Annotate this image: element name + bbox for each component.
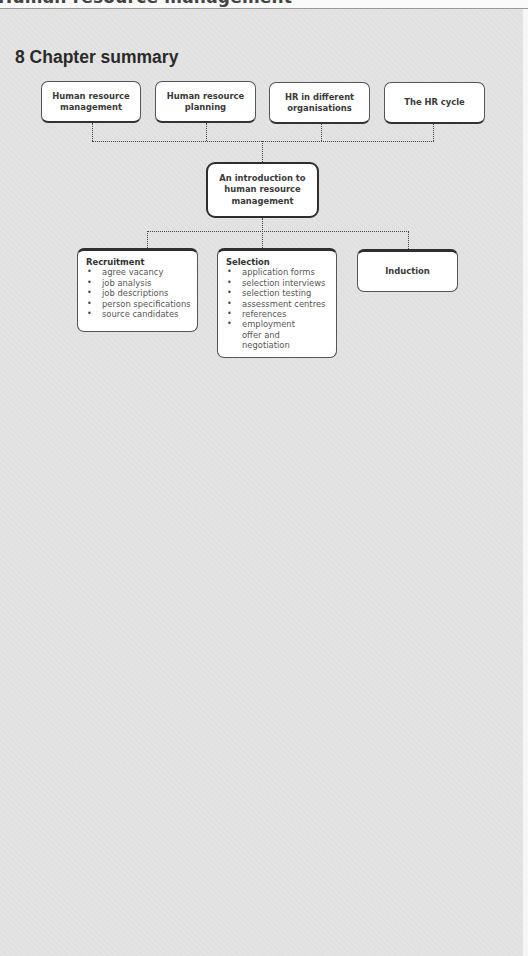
connector-line	[262, 141, 263, 162]
connector-line	[92, 123, 93, 141]
topic-box-hr-organisations: HR in different organisations	[269, 82, 370, 124]
list-item: •selection testing	[226, 288, 330, 298]
subtopic-box-selection: Selection •application forms •selection …	[217, 248, 337, 358]
list-item: •references	[226, 309, 330, 319]
list-item: •assessment centres	[226, 299, 330, 309]
list-item: •employment offer and negotiation	[226, 319, 330, 350]
subtopic-box-induction: Induction	[357, 249, 458, 292]
bullet-icon: •	[87, 267, 92, 277]
connector-line	[92, 141, 434, 142]
list-item: •agree vacancy	[86, 267, 191, 277]
list-item: •selection interviews	[226, 278, 330, 288]
bullet-icon: •	[227, 319, 232, 329]
subtopic-heading: Selection	[226, 257, 330, 267]
topic-box-label: HR in different organisations	[285, 92, 354, 114]
central-topic-box: An introduction to human resource manage…	[206, 162, 319, 218]
connector-line	[262, 218, 263, 248]
topic-box-hrm: Human resource management	[41, 81, 141, 123]
connector-line	[206, 123, 207, 141]
list-item: •person specifications	[86, 299, 191, 309]
bullet-icon: •	[227, 267, 232, 277]
bullet-icon: •	[227, 278, 232, 288]
list-item: •application forms	[226, 267, 330, 277]
central-topic-label: An introduction to human resource manage…	[219, 173, 305, 208]
bullet-icon: •	[227, 299, 232, 309]
page-background: Human resource management 8 Chapter summ…	[0, 0, 528, 956]
bullet-icon: •	[227, 309, 232, 319]
topic-box-label: The HR cycle	[404, 97, 465, 108]
bullet-icon: •	[87, 278, 92, 288]
list-item: •job analysis	[86, 278, 191, 288]
subtopic-list: •application forms •selection interviews…	[226, 267, 330, 350]
subtopic-box-recruitment: Recruitment •agree vacancy •job analysis…	[77, 248, 198, 332]
running-header: Human resource management	[0, 0, 528, 9]
topic-box-label: Human resource planning	[167, 91, 245, 113]
chapter-title: 8 Chapter summary	[15, 47, 178, 68]
connector-line	[147, 231, 148, 248]
topic-box-hr-planning: Human resource planning	[155, 81, 256, 123]
topic-box-hr-cycle: The HR cycle	[384, 82, 485, 124]
page-edge	[523, 9, 528, 956]
subtopic-heading: Induction	[385, 266, 430, 276]
bullet-icon: •	[87, 288, 92, 298]
connector-line	[321, 124, 322, 141]
bullet-icon: •	[227, 288, 232, 298]
running-header-title: Human resource management	[0, 0, 292, 7]
bullet-icon: •	[87, 309, 92, 319]
topic-box-label: Human resource management	[52, 91, 130, 113]
subtopic-list: •agree vacancy •job analysis •job descri…	[86, 267, 191, 319]
connector-line	[408, 231, 409, 249]
connector-line	[147, 231, 409, 232]
list-item: •source candidates	[86, 309, 191, 319]
subtopic-heading: Recruitment	[86, 257, 191, 267]
list-item: •job descriptions	[86, 288, 191, 298]
connector-line	[433, 124, 434, 141]
bullet-icon: •	[87, 299, 92, 309]
